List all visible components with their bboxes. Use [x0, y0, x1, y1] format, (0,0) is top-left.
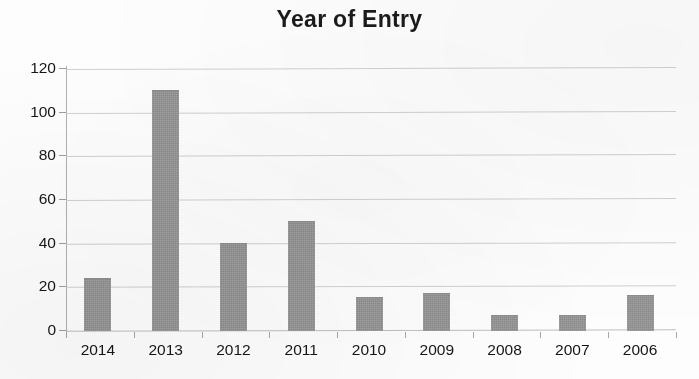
x-axis-label-2006: 2006	[623, 341, 657, 359]
chart-title: Year of Entry	[0, 6, 699, 33]
bar-2014	[84, 278, 111, 331]
x-tick-mark-2008	[473, 332, 474, 338]
x-tick-mark-2013	[134, 332, 135, 338]
y-tick-mark-120	[59, 68, 66, 69]
x-tick-mark-2012	[202, 332, 203, 338]
y-tick-label: 0	[8, 321, 56, 339]
x-axis-label-2009: 2009	[420, 341, 454, 359]
y-tick-mark-40	[59, 243, 66, 244]
y-tick-mark-60	[59, 199, 66, 200]
gridline-120	[66, 67, 676, 70]
x-tick-mark-2009	[405, 332, 406, 338]
x-axis-label-2012: 2012	[216, 341, 250, 359]
x-axis-label-2010: 2010	[352, 341, 386, 359]
x-tick-mark-2014	[66, 332, 67, 338]
bar-2007	[559, 315, 586, 331]
x-tick-mark-2007	[540, 332, 541, 338]
bar-2012	[220, 243, 247, 331]
y-tick-mark-0	[59, 330, 66, 331]
y-tick-mark-20	[59, 286, 66, 287]
y-tick-label: 120	[8, 59, 56, 77]
bar-2013	[152, 90, 179, 331]
bar-2011	[288, 221, 315, 331]
x-axis-label-2007: 2007	[555, 341, 589, 359]
x-tick-mark-2010	[337, 332, 338, 338]
x-axis-label-2013: 2013	[148, 341, 182, 359]
x-axis-label-2011: 2011	[285, 341, 318, 359]
y-tick-label: 40	[8, 234, 56, 252]
x-axis-label-2008: 2008	[487, 341, 521, 359]
bar-2008	[491, 315, 518, 331]
x-axis-label-2014: 2014	[81, 341, 115, 359]
bar-2009	[423, 293, 450, 331]
y-tick-label: 60	[8, 190, 56, 208]
y-tick-label: 80	[8, 146, 56, 164]
y-tick-mark-100	[59, 112, 66, 113]
y-tick-label: 20	[8, 277, 56, 295]
chart-page: Year of Entry 020406080100120 2014201320…	[0, 0, 699, 379]
bar-2006	[627, 295, 654, 331]
x-tick-mark-2006	[608, 332, 609, 338]
y-tick-mark-80	[59, 155, 66, 156]
y-tick-label: 100	[8, 103, 56, 121]
x-tick-mark-2011	[269, 332, 270, 338]
x-tick-mark-end	[676, 332, 677, 338]
plot-area	[66, 66, 676, 332]
bar-2010	[356, 297, 383, 331]
y-axis-tick-labels: 020406080100120	[0, 0, 56, 379]
